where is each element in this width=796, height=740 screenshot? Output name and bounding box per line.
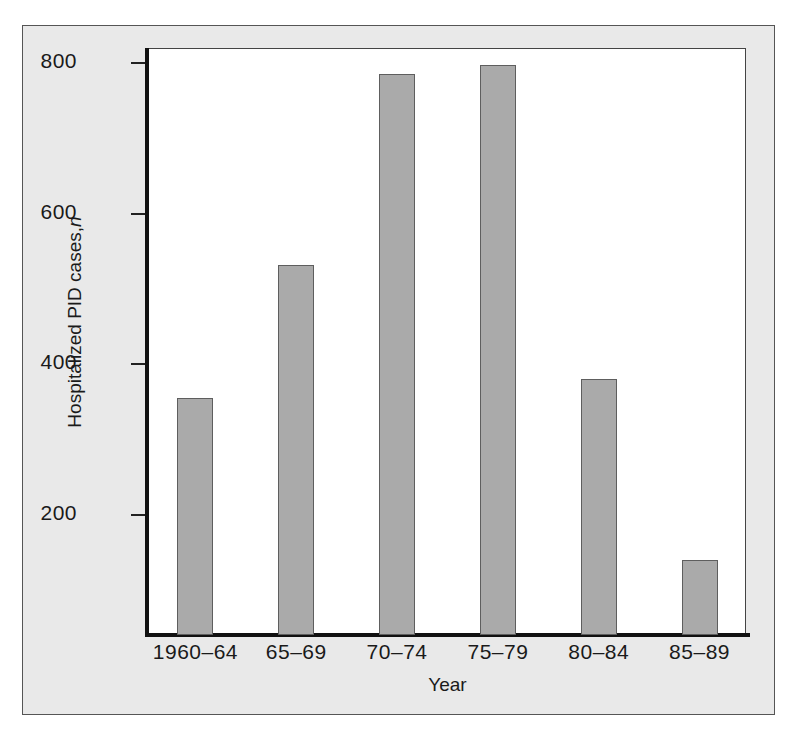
y-axis-title-text: Hospitalized PID cases, (64, 227, 85, 428)
x-axis-tick-label: 75–79 (448, 640, 549, 664)
y-axis-title: Hospitalized PID cases,n (64, 22, 86, 622)
x-axis-tick-label: 1960–64 (145, 640, 246, 664)
bar (177, 398, 213, 635)
figure-outer-frame: 200400600800 1960–6465–6970–7475–7980–84… (22, 25, 775, 715)
x-axis-tick-label: 80–84 (548, 640, 649, 664)
bar (581, 379, 617, 635)
y-axis-spine (145, 48, 149, 637)
figure-canvas: 200400600800 1960–6465–6970–7475–7980–84… (0, 0, 796, 740)
x-axis-tick-label: 65–69 (246, 640, 347, 664)
x-axis-tick-label: 70–74 (347, 640, 448, 664)
x-axis-title: Year (145, 674, 750, 696)
x-axis-tick-label: 85–89 (649, 640, 750, 664)
y-axis-tick (131, 514, 145, 516)
x-axis-spine (145, 633, 750, 637)
y-axis-title-italic-n: n (64, 216, 85, 227)
bar (278, 265, 314, 635)
y-axis-tick (131, 363, 145, 365)
bar (682, 560, 718, 635)
bar (379, 74, 415, 635)
y-axis-tick (131, 62, 145, 64)
y-axis-tick (131, 213, 145, 215)
bar (480, 65, 516, 635)
plot-area (145, 48, 746, 633)
